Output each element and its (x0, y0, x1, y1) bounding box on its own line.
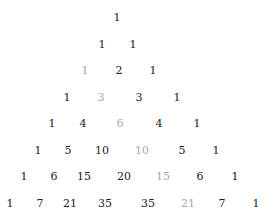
triangle-cell: 4 (156, 118, 163, 130)
triangle-cell: 35 (98, 198, 112, 210)
triangle-cell: 1 (194, 118, 201, 130)
triangle-cell: 1 (64, 92, 71, 104)
triangle-cell: 20 (117, 171, 131, 183)
triangle-cell: 1 (130, 39, 137, 51)
triangle-cell: 1 (213, 145, 220, 157)
triangle-cell: 1 (7, 198, 14, 210)
triangle-cell: 21 (63, 198, 77, 210)
triangle-cell: 1 (99, 39, 106, 51)
triangle-cell: 1 (49, 118, 56, 130)
triangle-cell: 3 (136, 92, 143, 104)
triangle-cell: 1 (82, 65, 89, 77)
triangle-cell: 35 (141, 198, 155, 210)
triangle-cell: 21 (181, 198, 195, 210)
pascal-triangle: 1111211331146411510105116152015611721353… (0, 0, 274, 222)
triangle-cell: 10 (135, 145, 149, 157)
triangle-cell: 4 (80, 118, 87, 130)
triangle-cell: 1 (232, 171, 239, 183)
triangle-cell: 2 (116, 65, 123, 77)
triangle-cell: 1 (174, 92, 181, 104)
triangle-cell: 1 (35, 145, 42, 157)
triangle-cell: 6 (51, 171, 58, 183)
triangle-cell: 1 (253, 198, 260, 210)
triangle-cell: 5 (65, 145, 72, 157)
triangle-cell: 1 (150, 65, 157, 77)
triangle-cell: 1 (21, 171, 28, 183)
triangle-cell: 10 (95, 145, 109, 157)
triangle-cell: 5 (179, 145, 186, 157)
triangle-cell: 15 (77, 171, 91, 183)
triangle-cell: 7 (219, 198, 226, 210)
triangle-cell: 3 (98, 92, 105, 104)
triangle-cell: 6 (117, 118, 124, 130)
triangle-cell: 15 (156, 171, 170, 183)
triangle-cell: 1 (114, 12, 121, 24)
triangle-cell: 6 (197, 171, 204, 183)
triangle-cell: 7 (37, 198, 44, 210)
